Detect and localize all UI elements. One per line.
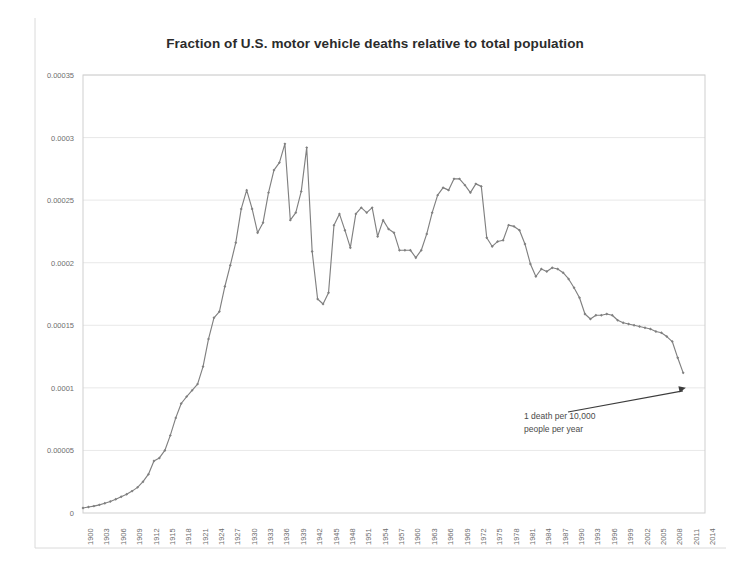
x-axis-tick-label: 1969 <box>463 528 472 545</box>
x-axis-tick-label: 1936 <box>282 528 291 545</box>
x-axis-tick-label: 1951 <box>364 528 373 545</box>
x-axis-tick-label: 1933 <box>266 528 275 545</box>
y-axis-tick-label: 0.0002 <box>0 258 74 267</box>
x-axis-tick-label: 1924 <box>217 528 226 545</box>
x-axis-tick-label: 1993 <box>593 528 602 545</box>
x-axis-tick-label: 1909 <box>135 528 144 545</box>
y-axis-tick-label: 0.0001 <box>0 383 74 392</box>
x-axis-tick-label: 1942 <box>315 528 324 545</box>
y-axis-tick-label: 0.00005 <box>0 446 74 455</box>
x-axis-tick-label: 1960 <box>413 528 422 545</box>
x-axis-tick-label: 1939 <box>299 528 308 545</box>
x-axis-tick-label: 1957 <box>397 528 406 545</box>
x-axis-tick-label: 1930 <box>250 528 259 545</box>
x-axis-tick-label: 2002 <box>643 528 652 545</box>
x-axis-tick-label: 1987 <box>561 528 570 545</box>
x-axis-tick-label: 1999 <box>626 528 635 545</box>
x-axis-tick-label: 1963 <box>430 528 439 545</box>
annotation-label: 1 death per 10,000 people per year <box>524 410 644 436</box>
x-axis-tick-label: 2011 <box>692 529 701 545</box>
x-axis-tick-label: 1966 <box>446 528 455 545</box>
plot-frame <box>83 75 705 513</box>
x-axis-tick-label: 2008 <box>675 528 684 545</box>
gridlines <box>83 75 705 450</box>
x-axis-tick-label: 1984 <box>544 528 553 545</box>
x-axis-tick-label: 1921 <box>201 528 210 545</box>
x-axis-tick-label: 1954 <box>381 528 390 545</box>
data-series-line <box>83 144 683 508</box>
y-axis-tick-label: 0 <box>0 509 74 518</box>
x-axis-tick-label: 1978 <box>512 528 521 545</box>
x-axis-tick-label: 1900 <box>86 528 95 545</box>
x-axis-tick-label: 1918 <box>184 528 193 545</box>
x-axis-tick-label: 1972 <box>479 528 488 545</box>
data-point-markers <box>82 142 685 509</box>
x-axis-tick-label: 1906 <box>119 528 128 545</box>
x-axis-tick-label: 1927 <box>233 528 242 545</box>
x-axis-tick-label: 1912 <box>152 528 161 545</box>
x-axis-tick-label: 1990 <box>577 528 586 545</box>
annotation-arrow <box>568 386 686 412</box>
x-axis-tick-label: 1981 <box>528 528 537 545</box>
x-axis-tick-label: 1996 <box>610 528 619 545</box>
outer-axis-lines <box>35 18 726 548</box>
annotation-line-2: people per year <box>524 423 644 436</box>
y-axis-tick-label: 0.00015 <box>0 321 74 330</box>
x-axis-tick-label: 1903 <box>102 528 111 545</box>
x-axis-tick-label: 1915 <box>168 528 177 545</box>
x-axis-tick-label: 1975 <box>495 528 504 545</box>
x-axis-tick-label: 1948 <box>348 528 357 545</box>
x-axis-tick-label: 1945 <box>332 528 341 545</box>
x-axis-tick-label: 2005 <box>659 528 668 545</box>
chart-plot-svg <box>0 0 743 581</box>
annotation-line-1: 1 death per 10,000 <box>524 410 644 423</box>
y-axis-tick-label: 0.00025 <box>0 196 74 205</box>
x-axis-tick-label: 2014 <box>708 528 717 545</box>
y-axis-tick-label: 0.00035 <box>0 71 74 80</box>
y-axis-tick-label: 0.0003 <box>0 133 74 142</box>
chart-container: Fraction of U.S. motor vehicle deaths re… <box>0 0 743 581</box>
